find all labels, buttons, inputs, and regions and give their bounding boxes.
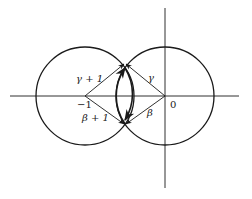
- complex-plane-diagram: [0, 0, 252, 199]
- label-gamma-plus-one: γ + 1: [76, 74, 103, 84]
- label-gamma: γ: [148, 73, 154, 83]
- label-beta: β: [147, 108, 153, 118]
- label-minus-one: −1: [77, 100, 92, 110]
- label-zero: 0: [170, 100, 176, 110]
- label-beta-plus-one: β + 1: [82, 113, 109, 123]
